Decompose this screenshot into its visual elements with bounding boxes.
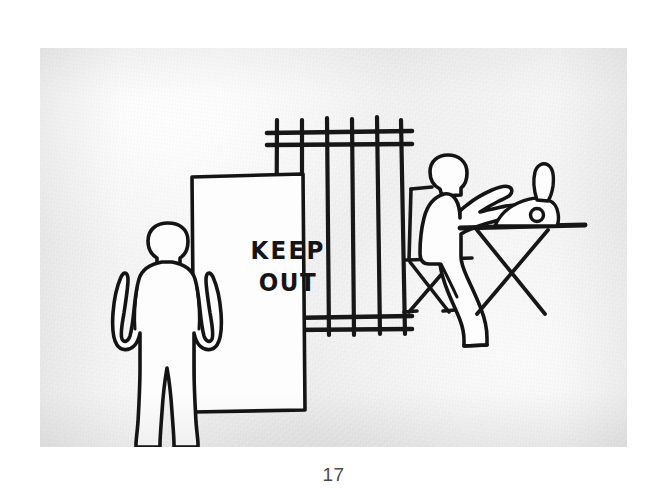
page-number: 17 bbox=[0, 464, 667, 486]
fence-upper-rails bbox=[267, 131, 412, 145]
fence-lower-rails bbox=[288, 316, 412, 330]
seated-figure bbox=[420, 155, 524, 346]
page-sheet: KEEP OUT 17 bbox=[0, 0, 667, 499]
sign-text-line-1: KEEP bbox=[232, 239, 344, 263]
sign-text-line-2: OUT bbox=[232, 271, 344, 295]
illustration-photo: KEEP OUT bbox=[40, 48, 627, 447]
